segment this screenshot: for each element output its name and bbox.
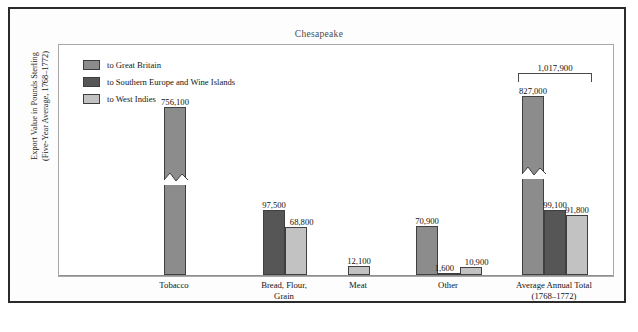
bar-wrap: 97,500 bbox=[263, 210, 285, 275]
bar-value-label: 99,100 bbox=[543, 200, 567, 210]
bar-group: 97,50068,800 bbox=[263, 210, 307, 275]
bar-value-label: 97,500 bbox=[262, 200, 286, 210]
bar-group: 827,00099,10091,800 bbox=[522, 96, 588, 275]
bar[interactable]: 827,000 bbox=[522, 96, 544, 275]
bar-value-label: 68,800 bbox=[290, 217, 314, 227]
legend-item-southern-europe: to Southern Europe and Wine Islands bbox=[83, 74, 235, 89]
bar[interactable]: 756,100 bbox=[164, 107, 186, 275]
axis-break-icon bbox=[164, 171, 186, 185]
axis-baseline bbox=[59, 275, 613, 276]
bar-value-label: 12,100 bbox=[347, 256, 371, 266]
legend-swatch-great-britain bbox=[83, 60, 100, 70]
bar-value-label: 1,600 bbox=[435, 263, 454, 273]
bar-wrap: 12,100 bbox=[348, 266, 370, 275]
y-axis-label-line-1: Export Value in Pounds Sterling bbox=[29, 26, 40, 186]
legend-item-west-indies: to West Indies bbox=[83, 91, 235, 106]
category-label-line: (1768–1772) bbox=[484, 291, 624, 302]
bar-value-label: 827,000 bbox=[519, 86, 547, 96]
bar[interactable]: 68,800 bbox=[285, 227, 307, 275]
legend-label-great-britain: to Great Britain bbox=[107, 60, 161, 70]
legend-item-great-britain: to Great Britain bbox=[83, 57, 235, 72]
bar-value-label: 756,100 bbox=[161, 97, 189, 107]
bar-wrap: 99,100 bbox=[544, 210, 566, 275]
bar-value-label: 10,900 bbox=[465, 257, 489, 267]
legend-swatch-west-indies bbox=[83, 94, 100, 104]
total-bracket-value: 1,017,900 bbox=[537, 63, 572, 73]
legend-label-west-indies: to West Indies bbox=[107, 94, 156, 104]
bar-wrap: 91,800 bbox=[566, 215, 588, 275]
bar[interactable]: 97,500 bbox=[263, 210, 285, 275]
bar-wrap: 10,900 bbox=[460, 267, 482, 275]
bar-group: 70,9001,60010,900 bbox=[416, 226, 482, 275]
chart-legend: to Great Britain to Southern Europe and … bbox=[83, 57, 235, 108]
bar-group: 12,100 bbox=[348, 266, 370, 275]
category-label-line: Grain bbox=[214, 291, 354, 302]
plot-panel: to Great Britain to Southern Europe and … bbox=[58, 44, 614, 277]
plot-inner: to Great Britain to Southern Europe and … bbox=[59, 45, 613, 276]
bar-value-label: 91,800 bbox=[565, 205, 589, 215]
bar[interactable]: 10,900 bbox=[460, 267, 482, 275]
bar-wrap: 756,100 bbox=[164, 107, 186, 275]
chart-title: Chesapeake bbox=[0, 29, 638, 39]
bar-wrap: 827,000 bbox=[522, 96, 544, 275]
bar-value-label: 70,900 bbox=[415, 216, 439, 226]
axis-break-icon bbox=[522, 165, 544, 179]
bar[interactable]: 91,800 bbox=[566, 215, 588, 275]
y-axis-label-line-2: (Five-Year Average, 1768–1772) bbox=[40, 26, 51, 186]
legend-swatch-southern-europe bbox=[83, 77, 100, 87]
bar-group: 756,100 bbox=[164, 107, 186, 275]
bar-wrap: 68,800 bbox=[285, 227, 307, 275]
category-label-line: Average Annual Total bbox=[484, 280, 624, 291]
bar[interactable]: 12,100 bbox=[348, 266, 370, 275]
legend-label-southern-europe: to Southern Europe and Wine Islands bbox=[107, 77, 235, 87]
y-axis-label: Export Value in Pounds Sterling (Five-Ye… bbox=[29, 26, 51, 186]
category-label: Average Annual Total(1768–1772) bbox=[484, 280, 624, 301]
bar[interactable]: 99,100 bbox=[544, 210, 566, 275]
total-bracket: 1,017,900 bbox=[518, 73, 592, 82]
